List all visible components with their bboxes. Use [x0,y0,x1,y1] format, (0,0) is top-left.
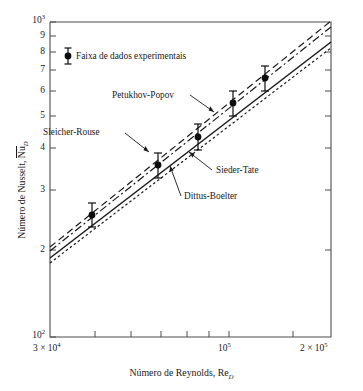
x-tick-label-100000: 105 [218,344,231,354]
annotation-sieder-tate: Sieder-Tate [216,166,259,175]
data-point [229,91,237,116]
y-axis-ticks-right [325,36,331,250]
plot-frame [50,22,331,337]
series-line-dittus-boelter [50,48,331,263]
legend-marker [65,48,72,64]
y-tick-label-800: 8 [12,47,45,57]
annotation-dittus-boelter: Dittus-Boelter [184,192,237,201]
y-tick-label-1000: 103 [12,16,45,26]
y-tick-label-900: 9 [12,31,45,41]
y-tick-label-700: 7 [12,65,45,75]
data-point [154,153,162,178]
y-tick-label-100: 102 [12,331,45,341]
x-tick-label-200000: 2 × 105 [300,344,328,354]
x-tick-label-30000: 3 × 104 [33,344,61,354]
x-axis-title: Número de Reynolds, ReD [0,368,363,378]
x-axis-ticks [95,331,293,337]
legend-label: Faixa de dados experimentais [76,52,186,61]
y-axis-title: Número de Nusselt, NuD [16,90,27,290]
chart-figure: 103 9 8 7 6 5 4 3 2 102 3 × 104 105 2 × … [0,0,363,391]
y-axis-ticks [50,22,56,337]
annotation-sleicher-rouse: Sleicher-Rouse [43,128,100,137]
data-point [261,66,269,91]
annotation-petukhov-popov: Petukhov-Popov [112,91,174,100]
